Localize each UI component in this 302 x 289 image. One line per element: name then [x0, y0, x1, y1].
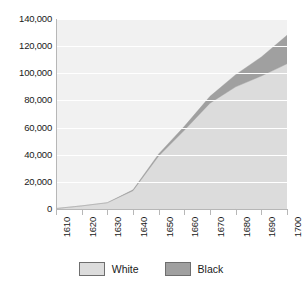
y-tick-label: 60,000	[0, 123, 52, 132]
gridline	[56, 73, 287, 74]
y-tick-label: 100,000	[0, 68, 52, 77]
legend-entry-white[interactable]: White	[79, 262, 139, 276]
plot-area	[56, 19, 287, 209]
x-tick-label: 1660	[189, 217, 200, 237]
y-tick-label: 20,000	[0, 177, 52, 186]
y-axis: 020,00040,00060,00080,000100,000120,0001…	[0, 0, 52, 229]
gridline	[56, 46, 287, 47]
gridline	[56, 182, 287, 183]
x-tick-label: 1650	[164, 217, 175, 237]
x-tick-mark	[184, 210, 185, 215]
x-tick-label: 1670	[215, 217, 226, 237]
gridline	[56, 100, 287, 101]
legend-label: White	[112, 264, 139, 275]
x-tick-mark	[159, 210, 160, 215]
x-tick-label: 1690	[266, 217, 277, 237]
x-tick-label: 1680	[241, 217, 252, 237]
gridline	[56, 155, 287, 156]
x-tick-mark	[210, 210, 211, 215]
x-tick-label: 1640	[138, 217, 149, 237]
legend-label: Black	[198, 264, 224, 275]
x-tick-mark	[236, 210, 237, 215]
area-series-white	[56, 64, 287, 209]
x-tick-mark	[133, 210, 134, 215]
x-tick-label: 1610	[61, 217, 72, 237]
x-tick-mark	[56, 210, 57, 215]
gridline	[56, 128, 287, 129]
gridline	[56, 19, 287, 20]
x-tick-mark	[261, 210, 262, 215]
x-tick-label: 1700	[292, 217, 302, 237]
area-chart: 020,00040,00060,00080,000100,000120,0001…	[0, 0, 302, 289]
y-tick-label: 140,000	[0, 14, 52, 23]
x-tick-mark	[107, 210, 108, 215]
legend-swatch-white	[79, 262, 105, 276]
y-axis-line	[56, 19, 57, 210]
chart-legend: WhiteBlack	[0, 262, 302, 276]
x-tick-mark	[287, 210, 288, 215]
legend-swatch-black	[165, 262, 191, 276]
y-tick-label: 40,000	[0, 150, 52, 159]
y-tick-label: 80,000	[0, 95, 52, 104]
x-tick-label: 1630	[112, 217, 123, 237]
x-axis-line	[56, 209, 288, 210]
x-tick-mark	[82, 210, 83, 215]
series-layer	[56, 19, 287, 209]
y-tick-label: 120,000	[0, 41, 52, 50]
legend-entry-black[interactable]: Black	[165, 262, 224, 276]
x-tick-label: 1620	[87, 217, 98, 237]
y-tick-label: 0	[0, 204, 52, 213]
